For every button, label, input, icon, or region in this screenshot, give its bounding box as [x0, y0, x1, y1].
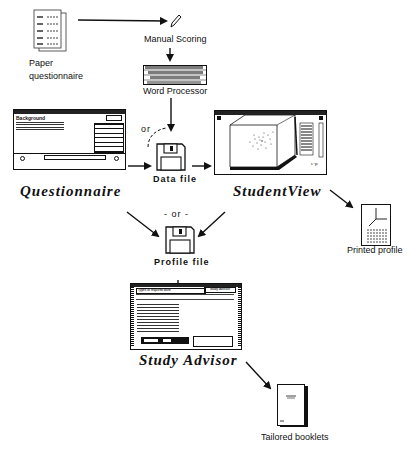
3d-scatter-window-icon: e·p	[214, 110, 327, 175]
advisor-window-button: Study Advisor	[204, 287, 236, 293]
arrow-studentview-to-profile	[199, 212, 225, 236]
arrow-questionnaire-to-profile	[127, 212, 158, 236]
questionnaire-label: Questionnaire	[20, 183, 121, 200]
or-label-middle: - or -	[164, 209, 189, 219]
paper-questionnaire-label: Paper questionnaire	[29, 57, 83, 83]
keyboard-icon	[143, 65, 207, 85]
arrow-advisor-to-booklets	[246, 362, 270, 388]
data-file-label: Data file	[153, 174, 197, 184]
printed-chart-icon	[361, 204, 391, 246]
study-advisor-label: Study Advisor	[139, 352, 238, 369]
advisor-window-title: Types of required work	[136, 288, 206, 294]
studentview-label: StudentView	[233, 183, 322, 200]
paper-stack-icon	[33, 9, 68, 53]
arrow-paper-to-scoring	[78, 20, 166, 21]
pencil-icon	[170, 14, 182, 28]
booklet-icon	[277, 384, 309, 428]
questionnaire-window-icon: Background	[13, 109, 126, 170]
questionnaire-window-title: Background	[16, 115, 45, 121]
floppy-disk-icon	[165, 226, 195, 254]
floppy-disk-icon	[156, 143, 186, 171]
printed-profile-label: Printed profile	[347, 245, 403, 255]
advisor-window-icon: Types of required work Study Advisor	[130, 283, 242, 350]
word-processor-label: Word Processor	[143, 86, 207, 96]
or-label-top: or	[141, 124, 151, 134]
profile-file-label: Profile file	[154, 257, 210, 267]
manual-scoring-label: Manual Scoring	[144, 34, 207, 44]
paper-questionnaire-node	[33, 9, 68, 57]
svg-text:e·p: e·p	[311, 161, 318, 166]
tailored-booklets-label: Tailored booklets	[261, 432, 329, 442]
arrow-studentview-to-printed	[330, 190, 352, 207]
